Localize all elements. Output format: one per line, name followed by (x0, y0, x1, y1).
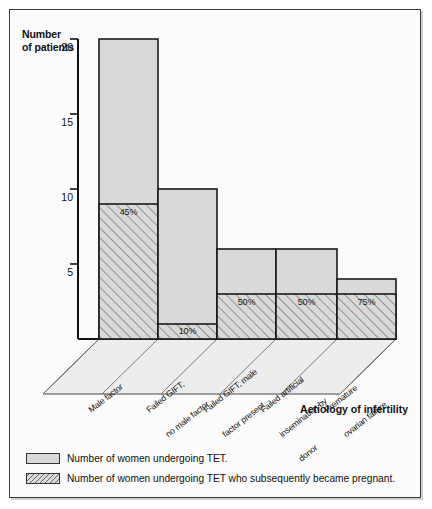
plot-area: Number of patients 20 15 10 5 (10, 10, 422, 499)
data-label-2: 10% (158, 326, 217, 336)
y-axis (70, 39, 99, 339)
x-category-label-2-line1: Failed GIFT; (145, 375, 193, 415)
legend-label-pregnant: Number of women undergoing TET who subse… (67, 473, 395, 484)
bar-group-failed-artificial-insemination (276, 249, 337, 339)
figure-frame: Number of patients 20 15 10 5 (9, 9, 421, 498)
data-label-3: 50% (217, 297, 276, 307)
bar-group-failed-gift-male-factor-present (217, 249, 276, 339)
legend-item-pregnant: Number of women undergoing TET who subse… (26, 468, 410, 488)
data-label-4: 50% (276, 297, 337, 307)
bar-total-2 (158, 189, 217, 339)
x-axis-title: Aetiology of infertility (300, 403, 408, 415)
legend-swatch-solid-gray (26, 453, 60, 464)
chart-legend: Number of women undergoing TET. Number o… (26, 448, 410, 488)
legend-item-total: Number of women undergoing TET. (26, 448, 410, 468)
legend-label-total: Number of women undergoing TET. (67, 453, 228, 464)
bar-group-premature-ovarian-failure (337, 279, 396, 339)
bar-pregnant-1 (99, 204, 158, 339)
x-category-label-1-line1: Male factor (87, 382, 125, 415)
bar-group-male-factor (99, 39, 158, 339)
figure-root: Number of patients 20 15 10 5 (0, 0, 432, 509)
data-label-1: 45% (99, 207, 158, 217)
data-label-5: 75% (337, 297, 396, 307)
legend-swatch-hatched-gray (26, 473, 60, 484)
bar-group-failed-gift-no-male-factor (158, 189, 217, 339)
